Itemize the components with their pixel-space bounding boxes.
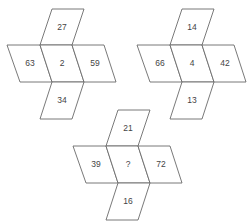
value-left: 66 (155, 58, 165, 68)
puzzle-diagram: 27 63 2 59 34 14 66 4 42 13 21 39 ? 72 1… (0, 0, 252, 224)
value-top: 14 (187, 22, 197, 32)
value-top: 27 (57, 22, 67, 32)
value-center: 4 (190, 58, 195, 68)
figure-2: 14 66 4 42 13 (137, 9, 246, 119)
value-bottom: 13 (187, 95, 197, 105)
value-top: 21 (123, 123, 133, 133)
figure-3: 21 39 ? 72 16 (73, 110, 182, 220)
figure-1: 27 63 2 59 34 (7, 9, 116, 119)
value-bottom: 34 (57, 95, 67, 105)
value-right: 72 (156, 159, 166, 169)
value-center: 2 (60, 58, 65, 68)
value-left: 39 (91, 159, 101, 169)
value-left: 63 (25, 58, 35, 68)
value-right: 59 (90, 58, 100, 68)
value-bottom: 16 (123, 196, 133, 206)
value-center-unknown: ? (126, 159, 131, 169)
value-right: 42 (220, 58, 230, 68)
